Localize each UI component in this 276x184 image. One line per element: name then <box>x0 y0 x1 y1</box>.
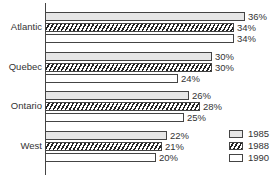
bar-chart: Atlantic36%34%34%Quebec30%30%24%Ontario2… <box>0 0 276 184</box>
value-label: 21% <box>165 141 184 152</box>
value-label: 20% <box>159 152 178 163</box>
value-label: 25% <box>187 112 206 123</box>
legend-label-1988: 1988 <box>248 140 269 151</box>
bar-ontario-1988 <box>45 102 200 111</box>
bar-ontario-1985 <box>45 91 189 100</box>
legend-swatch-1985 <box>229 130 243 138</box>
value-label: 28% <box>203 101 222 112</box>
value-label: 24% <box>181 73 200 84</box>
value-label: 30% <box>215 62 234 73</box>
bar-ontario-1990 <box>45 113 184 122</box>
bar-atlantic-1985 <box>45 12 245 21</box>
category-label: West <box>0 140 42 151</box>
value-label: 34% <box>237 22 256 33</box>
bar-west-1990 <box>45 153 156 162</box>
value-label: 26% <box>192 90 211 101</box>
legend-swatch-1988 <box>229 142 243 150</box>
bar-quebec-1990 <box>45 74 178 83</box>
bar-atlantic-1988 <box>45 23 234 32</box>
bar-atlantic-1990 <box>45 34 234 43</box>
category-label: Atlantic <box>0 21 42 32</box>
legend-label-1985: 1985 <box>248 128 269 139</box>
value-label: 30% <box>215 51 234 62</box>
value-label: 22% <box>170 130 189 141</box>
legend-swatch-1990 <box>229 154 243 162</box>
bar-west-1988 <box>45 142 162 151</box>
bar-quebec-1985 <box>45 52 212 61</box>
legend-label-1990: 1990 <box>248 152 269 163</box>
category-label: Ontario <box>0 100 42 111</box>
category-label: Quebec <box>0 61 42 72</box>
bar-west-1985 <box>45 131 167 140</box>
value-label: 34% <box>237 33 256 44</box>
bar-quebec-1988 <box>45 63 212 72</box>
value-label: 36% <box>248 11 267 22</box>
